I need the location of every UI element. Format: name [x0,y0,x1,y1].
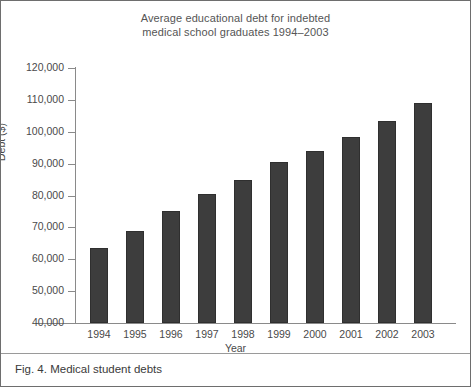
chart-title: Average educational debt for indebted me… [1,11,470,39]
y-axis-tick-label: 90,000 [32,157,64,169]
y-axis-tick-mark [68,227,75,228]
y-axis-tick-label: 110,000 [27,93,64,105]
y-axis-tick-label: 60,000 [32,252,64,264]
chart-title-line-2: medical school graduates 1994–2003 [1,25,470,39]
bar [306,151,324,323]
bar [414,103,432,323]
x-axis-tick-label: 2000 [295,328,335,340]
y-axis-title: Debt ($) [0,123,7,161]
bar [234,180,252,323]
x-axis-tick-label: 1996 [151,328,191,340]
x-axis-title: Year [1,342,470,354]
x-axis-tick-label: 2003 [403,328,443,340]
bar [90,248,108,323]
chart-title-line-1: Average educational debt for indebted [141,12,330,24]
x-axis-tick-label: 1995 [115,328,155,340]
y-axis-tick-mark [68,291,75,292]
x-axis-tick-label: 1999 [259,328,299,340]
chart-panel: Average educational debt for indebted me… [1,1,470,354]
bar [270,162,288,323]
x-axis-tick-label: 1998 [223,328,263,340]
y-axis-tick-mark [68,196,75,197]
bar [198,194,216,323]
y-axis-tick-label: 120,000 [26,61,64,73]
x-axis-tick-label: 2002 [367,328,407,340]
bar [162,211,180,323]
bar [342,137,360,323]
y-axis-tick-mark [68,132,75,133]
x-axis-line [36,323,456,324]
y-axis-tick-mark [68,259,75,260]
y-axis-tick-mark [68,323,75,324]
x-axis-tick-label: 2001 [331,328,371,340]
y-axis-tick-mark [68,100,75,101]
y-axis-tick-mark [68,164,75,165]
y-axis-tick-label: 70,000 [32,220,64,232]
y-axis-tick-mark [68,68,75,69]
x-axis-tick-label: 1997 [187,328,227,340]
y-axis-tick-label: 100,000 [26,125,64,137]
x-axis-tick-label: 1994 [79,328,119,340]
bar [378,121,396,323]
y-axis-tick-label: 40,000 [32,316,64,328]
y-axis-tick-label: 80,000 [32,189,64,201]
bar [126,231,144,323]
figure-caption: Fig. 4. Medical student debts [15,363,162,375]
figure-container: Average educational debt for indebted me… [0,0,471,387]
y-axis-tick-label: 50,000 [32,284,64,296]
plot-area [76,68,456,323]
